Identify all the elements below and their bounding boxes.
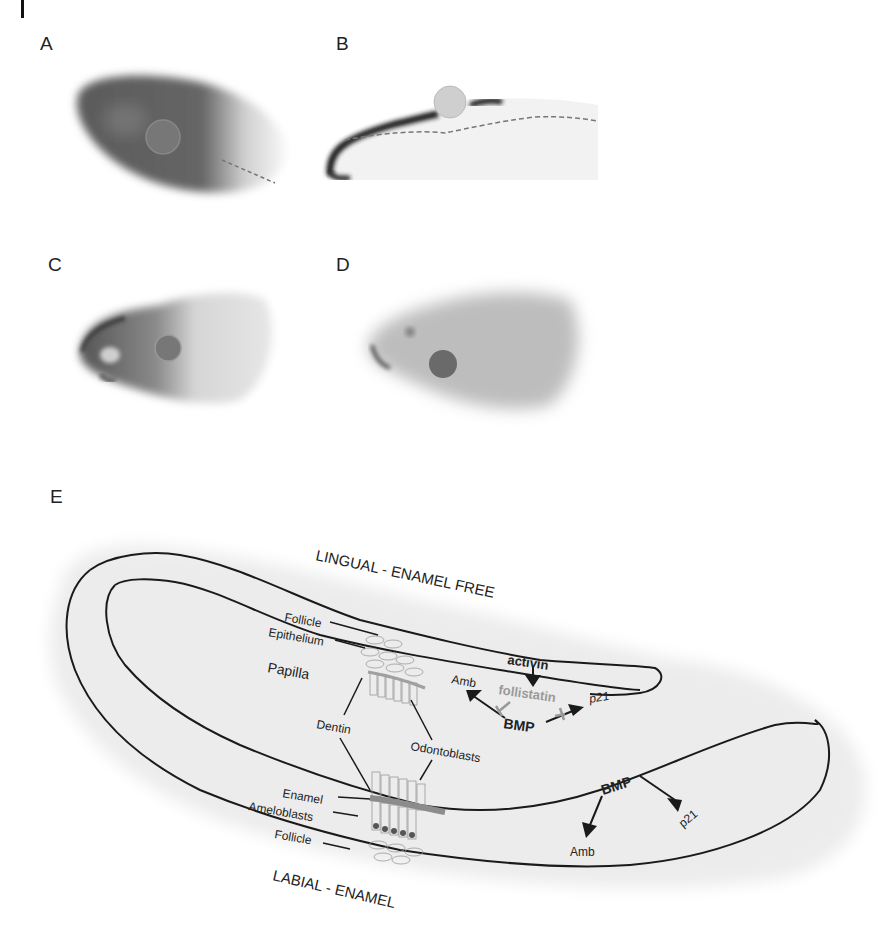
incisor-schematic: LINGUAL - ENAMEL FREE LABIAL - ENAMEL Fo…: [50, 545, 865, 911]
panel-a-image: [77, 76, 286, 193]
label-amb-labial: Amb: [570, 845, 595, 859]
labial-region-label: LABIAL - ENAMEL: [271, 866, 397, 911]
follicle-halo: [50, 545, 865, 888]
panel-b-image: [328, 86, 598, 180]
figure-canvas: LINGUAL - ENAMEL FREE LABIAL - ENAMEL Fo…: [0, 0, 885, 940]
panel-c-image: [80, 293, 272, 403]
panel-d-image: [368, 293, 578, 409]
